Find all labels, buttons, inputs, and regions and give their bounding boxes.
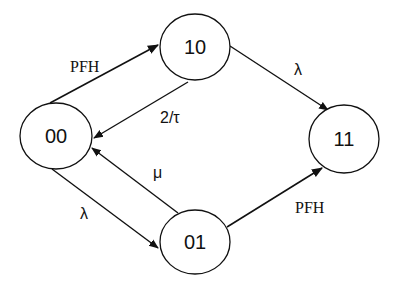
edge-01-to-11: PFH: [227, 168, 325, 227]
node-label-11: 11: [334, 128, 355, 150]
edge-label-lambda-bottom: λ: [80, 205, 88, 222]
edge-label-2-tau: 2/τ: [160, 109, 180, 126]
node-label-10: 10: [184, 36, 206, 58]
edge-label-pfh-top: PFH: [70, 58, 100, 75]
node-10: 10: [160, 14, 230, 80]
node-label-00: 00: [45, 125, 67, 147]
state-diagram: PFH 2/τ λ λ μ PFH 10 00: [0, 0, 398, 288]
edge-01-to-00: μ: [92, 148, 178, 213]
edge-10-to-11: λ: [230, 46, 328, 110]
edge-label-mu: μ: [153, 164, 162, 181]
edge-00-to-10: PFH: [50, 45, 158, 103]
node-11: 11: [309, 105, 379, 173]
node-00: 00: [20, 103, 92, 169]
edge-10-to-00: 2/τ: [94, 82, 188, 138]
edge-label-lambda-top: λ: [294, 61, 302, 78]
node-01: 01: [160, 210, 230, 274]
node-label-01: 01: [184, 231, 206, 253]
edge-00-to-01: λ: [52, 169, 158, 248]
diagram-svg: PFH 2/τ λ λ μ PFH 10 00: [0, 0, 398, 288]
edge-label-pfh-bottom: PFH: [295, 199, 325, 216]
